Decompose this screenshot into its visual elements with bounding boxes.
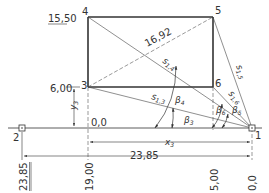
scale-0-0: 0,0: [247, 175, 258, 191]
bottom-scale: 23,85 19,00 5,00 0,0: [18, 162, 258, 191]
y3-label: y3: [68, 101, 79, 111]
height-top-label: 15,50: [48, 13, 77, 24]
point-2-label: 2: [13, 132, 19, 143]
beta-4-label: β4: [174, 95, 185, 106]
x3-label: x3: [164, 137, 174, 148]
point-4-label: 4: [82, 6, 88, 17]
scale-23-85: 23,85: [18, 162, 29, 191]
diagonal-label: 16,92: [143, 26, 173, 49]
scale-19-00: 19,00: [84, 162, 95, 191]
origin-label: 0,0: [91, 117, 107, 128]
total-width-label: 23,85: [130, 150, 159, 161]
point-6-label: 6: [215, 78, 221, 89]
survey-diagram: 4 5 3 6 1 2 15,50 6,00 0,0 16,92 23,85 x…: [0, 0, 269, 193]
beta-5-label: β5: [231, 105, 242, 116]
height-3-label: 6,00: [50, 83, 72, 94]
beta-6-label: β6: [215, 105, 226, 116]
point-5-label: 5: [215, 5, 221, 16]
scale-5-00: 5,00: [209, 169, 220, 191]
point-1-label: 1: [255, 130, 261, 141]
point-3-label: 3: [81, 80, 87, 91]
s15-label: s1,5: [233, 63, 248, 80]
beta-3-label: β3: [183, 115, 194, 126]
